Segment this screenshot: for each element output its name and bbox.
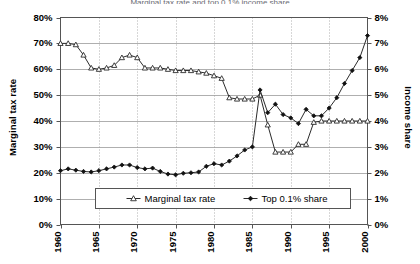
y-axis-left-tick-label: 80% [19, 12, 53, 23]
y-axis-left-tick-label: 30% [19, 141, 53, 152]
data-point-marker [342, 81, 346, 85]
data-point-marker [135, 165, 139, 169]
legend-label: Marginal tax rate [145, 193, 216, 204]
series-line-top-0-1-share [61, 36, 368, 175]
data-point-marker [66, 167, 70, 171]
y-axis-right-tick-label: 8% [375, 12, 409, 23]
x-axis-tick-label: 1995 [320, 231, 331, 264]
x-axis-tick-label: 1990 [282, 231, 293, 264]
x-axis-tick-label: 1970 [128, 231, 139, 264]
y-axis-right-tick-label: 6% [375, 63, 409, 74]
data-point-marker [365, 34, 369, 38]
y-axis-left-tick-label: 10% [19, 193, 53, 204]
data-point-marker [143, 167, 147, 171]
data-point-marker [166, 172, 170, 176]
legend-label: Top 0.1% share [262, 193, 328, 204]
x-axis-tick-label: 1985 [243, 231, 254, 264]
y-axis-right-tick-label: 4% [375, 115, 409, 126]
data-point-marker [74, 168, 78, 172]
y-axis-left-tick-label: 60% [19, 63, 53, 74]
y-axis-left-tick-label: 0% [19, 219, 53, 230]
y-axis-right-tick-label: 3% [375, 141, 409, 152]
data-point-marker [120, 163, 124, 167]
y-axis-right-tick-label: 2% [375, 167, 409, 178]
data-point-marker [104, 167, 108, 171]
plot-area: Marginal tax rateTop 0.1% share [0, 0, 420, 264]
x-axis-tick-label: 1965 [90, 231, 101, 264]
chart-legend: Marginal tax rateTop 0.1% share [96, 189, 351, 209]
data-point-marker [181, 171, 185, 175]
y-axis-right-tick-label: 0% [375, 219, 409, 230]
data-point-marker [220, 163, 224, 167]
y-axis-left-tick-label: 50% [19, 89, 53, 100]
data-point-marker [212, 162, 216, 166]
y-axis-right-tick-label: 1% [375, 193, 409, 204]
data-point-marker [127, 52, 132, 57]
y-axis-right-tick-label: 5% [375, 89, 409, 100]
data-point-marker [250, 145, 254, 149]
data-point-marker [189, 171, 193, 175]
data-point-marker [58, 169, 62, 173]
data-point-marker [112, 165, 116, 169]
data-point-marker [265, 122, 270, 127]
x-axis-tick-label: 2000 [359, 231, 370, 264]
data-point-marker [350, 68, 354, 72]
data-point-marker [358, 56, 362, 60]
data-point-marker [158, 169, 162, 173]
x-axis-tick-label: 1975 [167, 231, 178, 264]
x-axis-tick-label: 1980 [205, 231, 216, 264]
y-axis-left-tick-label: 20% [19, 167, 53, 178]
chart-container: Marginal tax rate and top 0.1% income sh… [0, 0, 420, 264]
data-point-marker [89, 65, 94, 70]
y-axis-left-tick-label: 40% [19, 115, 53, 126]
x-axis-tick-label: 1960 [52, 231, 63, 264]
data-point-marker [97, 169, 101, 173]
data-point-marker [127, 163, 131, 167]
data-point-marker [151, 166, 155, 170]
data-series-layer [58, 34, 370, 177]
data-point-marker [258, 88, 262, 92]
data-point-marker [81, 169, 85, 173]
y-axis-left-tick-label: 70% [19, 37, 53, 48]
series-line-marginal-tax-rate [61, 43, 368, 152]
y-axis-right-tick-label: 7% [375, 37, 409, 48]
